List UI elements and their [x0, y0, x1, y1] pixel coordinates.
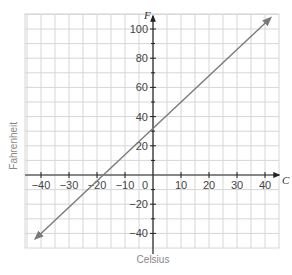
x-tick-label: −40 — [32, 179, 51, 191]
y-tick-label: 80 — [136, 52, 148, 64]
y-tick-label: −20 — [129, 198, 148, 210]
y-axis-name: F — [143, 9, 151, 21]
y-tick-label: −40 — [129, 227, 148, 239]
x-tick-label: −10 — [116, 179, 135, 191]
y-tick-label: 100 — [130, 23, 148, 35]
x-tick-label: 0 — [142, 179, 148, 191]
celsius-fahrenheit-chart: −40−30−20−10010203040−40−2020406080100CF… — [0, 0, 292, 275]
x-tick-label: −30 — [60, 179, 79, 191]
x-axis-name: C — [282, 174, 290, 186]
x-tick-label: 20 — [203, 179, 215, 191]
x-tick-label: 30 — [231, 179, 243, 191]
y-axis-label: Fahrenheit — [8, 122, 19, 170]
x-tick-label: 10 — [175, 179, 187, 191]
y-tick-label: 20 — [136, 140, 148, 152]
x-axis-label: Celsius — [137, 254, 170, 265]
x-tick-label: 40 — [259, 179, 271, 191]
y-tick-label: 40 — [136, 111, 148, 123]
y-tick-label: 60 — [136, 81, 148, 93]
